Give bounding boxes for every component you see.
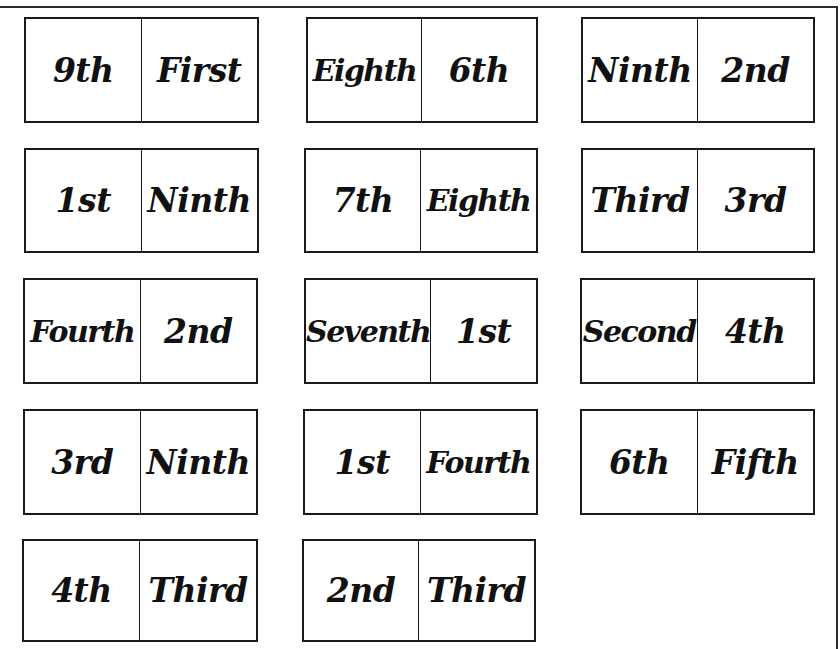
card-left-label: 3rd	[25, 411, 141, 513]
domino-card[interactable]: Seventh 1st	[304, 278, 538, 384]
domino-card[interactable]: Second 4th	[580, 278, 815, 384]
domino-card[interactable]: 3rd Ninth	[23, 409, 258, 515]
right-border-line	[836, 6, 838, 649]
domino-card[interactable]: 4th Third	[22, 539, 258, 642]
card-right-label: Fourth	[421, 411, 537, 513]
domino-card[interactable]: Third 3rd	[581, 148, 815, 253]
card-right-label: First	[142, 19, 258, 121]
card-left-label: Fourth	[25, 280, 141, 382]
domino-card[interactable]: 9th First	[24, 17, 259, 123]
card-right-label: Fifth	[698, 411, 814, 513]
card-right-label: Eighth	[421, 150, 536, 251]
card-left-label: 4th	[24, 541, 140, 640]
card-right-label: 6th	[422, 19, 536, 121]
card-left-label: 1st	[26, 150, 142, 251]
domino-card[interactable]: Fourth 2nd	[23, 278, 258, 384]
card-left-label: 1st	[305, 411, 421, 513]
domino-card[interactable]: 7th Eighth	[304, 148, 538, 253]
card-right-label: 4th	[698, 280, 814, 382]
domino-card[interactable]: Ninth 2nd	[581, 17, 815, 123]
card-right-label: 2nd	[141, 280, 257, 382]
domino-card[interactable]: 6th Fifth	[580, 409, 815, 515]
card-left-label: 2nd	[304, 541, 419, 640]
card-left-label: 9th	[26, 19, 142, 121]
card-left-label: Second	[582, 280, 698, 382]
card-left-label: 6th	[582, 411, 698, 513]
domino-card[interactable]: 2nd Third	[302, 539, 536, 642]
card-right-label: Ninth	[142, 150, 258, 251]
domino-card[interactable]: Eighth 6th	[306, 17, 538, 123]
top-border-line	[0, 6, 838, 8]
card-right-label: 3rd	[698, 150, 813, 251]
domino-card[interactable]: 1st Ninth	[24, 148, 259, 253]
card-left-label: 7th	[306, 150, 421, 251]
card-left-label: Eighth	[308, 19, 422, 121]
card-left-label: Third	[583, 150, 698, 251]
card-left-label: Seventh	[306, 280, 431, 382]
card-left-label: Ninth	[583, 19, 698, 121]
card-right-label: Third	[419, 541, 534, 640]
card-right-label: 2nd	[698, 19, 813, 121]
card-right-label: 1st	[431, 280, 536, 382]
card-right-label: Ninth	[141, 411, 257, 513]
domino-card[interactable]: 1st Fourth	[303, 409, 538, 515]
card-right-label: Third	[140, 541, 256, 640]
